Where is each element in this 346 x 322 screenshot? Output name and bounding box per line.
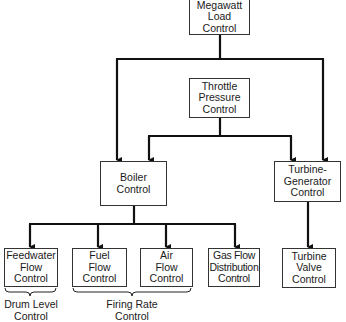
node-gas-flow-distribution-control: Gas Flow Distribution Control [208, 248, 260, 287]
node-turbine-generator-control: Turbine- Generator Control [274, 161, 341, 202]
node-throttle-pressure-control: Throttle Pressure Control [189, 78, 250, 118]
group-label-firing-rate-control: Firing Rate Control [96, 299, 168, 322]
node-feedwater-flow-control: Feedwater Flow Control [4, 248, 58, 287]
node-megawatt-load-control: Megawatt Load Control [189, 0, 250, 35]
node-boiler-control: Boiler Control [100, 161, 167, 206]
node-turbine-valve-control: Turbine Valve Control [282, 248, 336, 288]
drum-level-brace [5, 288, 56, 296]
node-air-flow-control: Air Flow Control [140, 248, 193, 287]
firing-rate-brace [73, 288, 191, 296]
group-label-drum-level-control: Drum Level Control [0, 299, 62, 322]
node-fuel-flow-control: Fuel Flow Control [72, 248, 127, 287]
